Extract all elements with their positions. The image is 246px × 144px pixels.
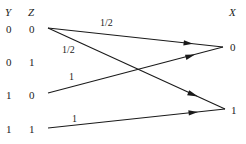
arrowhead-icon xyxy=(185,54,195,60)
input-y-value: 1 xyxy=(6,123,12,135)
input-row-01: 0 1 xyxy=(6,56,35,68)
header-z: Z xyxy=(28,6,35,18)
channel-diagram: Y Z X 0 0 0 1 1 0 1 1 0 1 1/2 1/2 1 xyxy=(0,0,246,144)
output-x-1: 1 xyxy=(231,104,237,116)
edge-11-to-1: 1 xyxy=(48,109,225,128)
header-y: Y xyxy=(5,6,13,18)
input-y-value: 0 xyxy=(6,23,12,35)
arrowhead-icon xyxy=(183,40,193,45)
input-row-10: 1 0 xyxy=(6,89,35,101)
input-z-value: 0 xyxy=(29,89,35,101)
input-row-00: 0 0 xyxy=(6,23,35,35)
input-z-value: 0 xyxy=(29,23,35,35)
edge-label: 1/2 xyxy=(100,17,113,28)
input-z-value: 1 xyxy=(29,56,35,68)
header-x: X xyxy=(228,6,237,18)
arrowhead-icon xyxy=(188,110,198,115)
edge-label: 1 xyxy=(69,71,74,82)
arrowhead-icon xyxy=(187,90,198,96)
edge-label: 1 xyxy=(72,113,77,124)
input-y-value: 1 xyxy=(6,89,12,101)
edge-00-to-0: 1/2 xyxy=(48,17,223,47)
edge-label: 1/2 xyxy=(62,44,75,55)
input-z-value: 1 xyxy=(29,123,35,135)
output-x-0: 0 xyxy=(230,41,236,53)
edge-00-to-1: 1/2 xyxy=(48,28,225,109)
input-y-value: 0 xyxy=(6,56,12,68)
input-row-11: 1 1 xyxy=(6,123,35,135)
